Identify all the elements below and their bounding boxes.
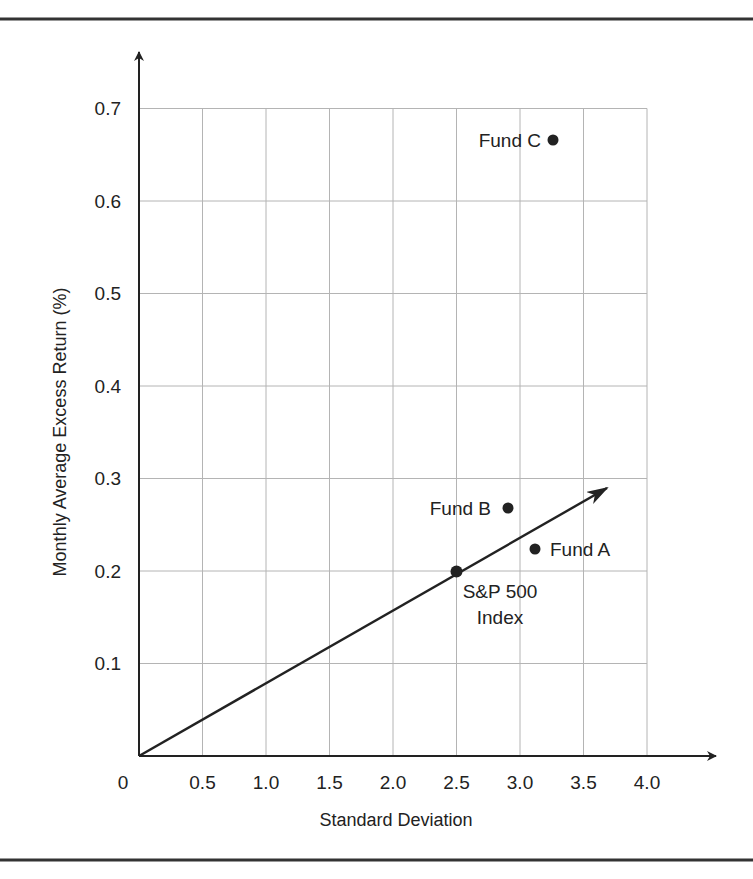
x-tick-label: 0.5	[189, 772, 215, 793]
x-axis-title: Standard Deviation	[319, 810, 472, 830]
y-tick-label: 0.7	[95, 98, 121, 119]
y-tick-label: 0.5	[95, 283, 121, 304]
x-tick-label: 3.0	[507, 772, 533, 793]
y-tick-label: 0.6	[95, 191, 121, 212]
label-fund-a: Fund A	[550, 539, 611, 560]
x-tick-label: 3.5	[570, 772, 596, 793]
data-point-fund-b	[503, 503, 514, 514]
data-point-fund-c	[548, 135, 559, 146]
y-tick-label: 0.2	[95, 561, 121, 582]
x-tick-labels: 0 0.5 1.0 1.5 2.0 2.5 3.0 3.5 4.0	[118, 772, 661, 793]
label-fund-b: Fund B	[430, 498, 491, 519]
x-tick-label-origin: 0	[118, 772, 129, 793]
chart-svg: 0.1 0.2 0.3 0.4 0.5 0.6 0.7 0 0.5 1.0 1.…	[0, 0, 753, 879]
x-tick-label: 2.5	[443, 772, 469, 793]
data-point-sp500	[451, 566, 463, 578]
capital-market-line-arrow	[139, 488, 607, 756]
data-point-fund-a	[530, 544, 541, 555]
chart-figure: 0.1 0.2 0.3 0.4 0.5 0.6 0.7 0 0.5 1.0 1.…	[0, 0, 753, 879]
grid	[139, 109, 647, 757]
y-tick-labels: 0.1 0.2 0.3 0.4 0.5 0.6 0.7	[95, 98, 122, 674]
x-tick-label: 1.0	[253, 772, 279, 793]
x-tick-label: 4.0	[634, 772, 660, 793]
label-fund-c: Fund C	[479, 130, 541, 151]
label-sp500-line1: S&P 500	[463, 581, 538, 602]
x-tick-label: 1.5	[316, 772, 342, 793]
x-tick-label: 2.0	[380, 772, 406, 793]
y-axis-title: Monthly Average Excess Return (%)	[50, 288, 70, 577]
y-tick-label: 0.3	[95, 468, 121, 489]
label-sp500-line2: Index	[477, 607, 524, 628]
y-tick-label: 0.4	[95, 376, 122, 397]
y-tick-label: 0.1	[95, 653, 121, 674]
